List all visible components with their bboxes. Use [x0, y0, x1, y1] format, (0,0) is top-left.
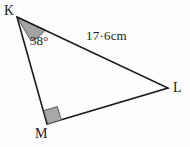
side-length-label-kl: 17·6cm [86, 29, 127, 42]
vertex-label-l: L [173, 81, 182, 95]
triangle-diagram-canvas [0, 0, 190, 147]
geometry-figure-triangle-klm: K L M 38° 17·6cm [0, 0, 190, 147]
vertex-label-m: M [35, 127, 47, 141]
vertex-label-k: K [4, 4, 14, 18]
angle-measure-label-k: 38° [30, 34, 48, 47]
